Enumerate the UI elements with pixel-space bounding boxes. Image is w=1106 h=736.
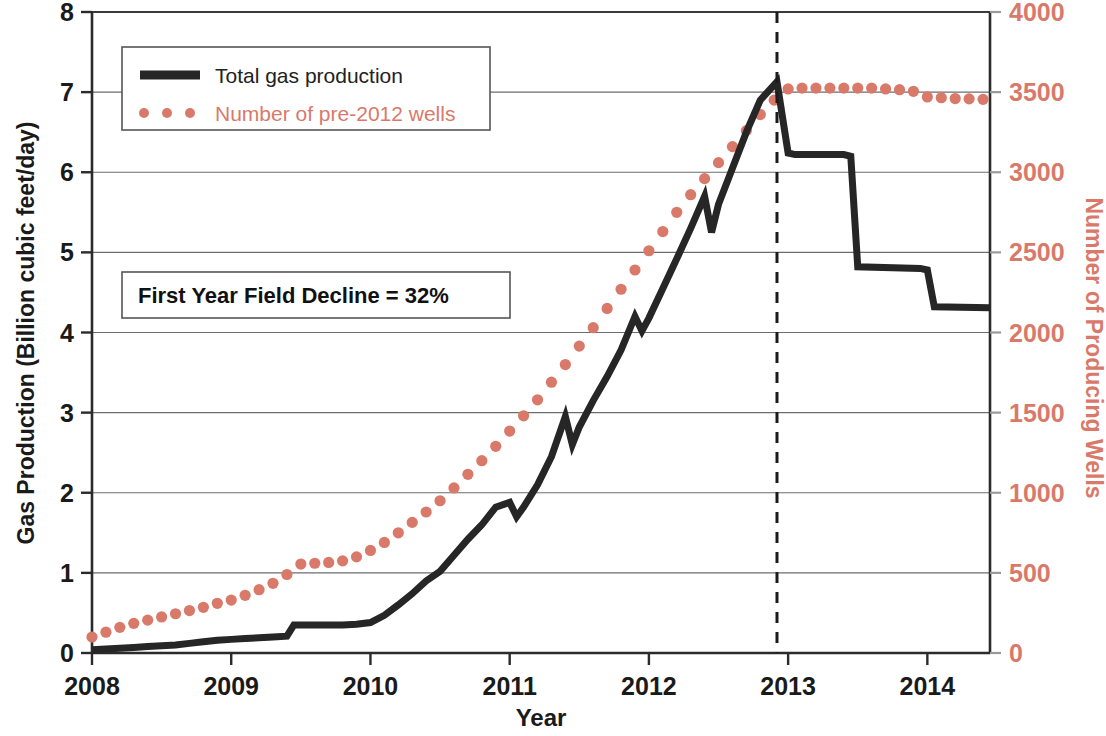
x-tick-label: 2009: [203, 672, 259, 700]
data-point-wells: [685, 189, 696, 200]
data-point-wells: [351, 551, 362, 562]
data-point-wells: [671, 207, 682, 218]
data-point-wells: [950, 93, 961, 104]
y-tick-label-left: 4: [60, 319, 74, 347]
y-tick-label-left: 3: [60, 399, 74, 427]
data-point-wells: [240, 590, 251, 601]
data-point-wells: [894, 84, 905, 95]
x-tick-label: 2011: [483, 672, 537, 700]
data-point-wells: [588, 322, 599, 333]
gridlines-group: [92, 92, 990, 573]
data-point-wells: [546, 377, 557, 388]
data-point-wells: [518, 410, 529, 421]
data-point-wells: [866, 83, 877, 94]
chart-svg: 0123456780500100015002000250030003500400…: [0, 0, 1106, 736]
x-tick-label: 2010: [343, 672, 399, 700]
data-point-wells: [936, 92, 947, 103]
data-point-wells: [337, 555, 348, 566]
x-tick-label: 2014: [900, 672, 956, 700]
y-tick-label-left: 5: [60, 238, 74, 266]
y-axis-title-left: Gas Production (Billion cubic feet/day): [13, 122, 39, 545]
data-point-wells: [615, 284, 626, 295]
data-point-wells: [922, 91, 933, 102]
data-point-wells: [281, 569, 292, 580]
line-total-gas-production: [92, 82, 990, 650]
x-tick-label: 2012: [621, 672, 677, 700]
data-point-wells: [643, 245, 654, 256]
data-point-wells: [880, 83, 891, 94]
annotation-label: First Year Field Decline = 32%: [138, 283, 449, 308]
y-tick-label-left: 1: [60, 559, 74, 587]
legend-label-number-of-pre-2012-wells: Number of pre-2012 wells: [215, 102, 455, 125]
y-tick-label-right: 1000: [1009, 479, 1065, 507]
data-point-wells: [434, 495, 445, 506]
data-point-wells: [253, 584, 264, 595]
data-point-wells: [977, 94, 988, 105]
data-point-wells: [629, 264, 640, 275]
data-point-wells: [838, 83, 849, 94]
annotation-first-year-field-decline: First Year Field Decline = 32%: [122, 272, 510, 318]
y-tick-label-left: 2: [60, 479, 74, 507]
data-point-wells: [964, 93, 975, 104]
y-tick-label-right: 2500: [1009, 238, 1065, 266]
data-point-wells: [212, 598, 223, 609]
data-point-wells: [448, 482, 459, 493]
y-tick-label-right: 3000: [1009, 158, 1065, 186]
data-point-wells: [393, 527, 404, 538]
x-tick-label: 2008: [64, 672, 120, 700]
data-point-wells: [908, 86, 919, 97]
x-axis-title: Year: [516, 704, 567, 731]
y-tick-label-left: 0: [60, 639, 74, 667]
data-point-wells: [365, 545, 376, 556]
data-point-wells: [560, 359, 571, 370]
y-tick-label-left: 6: [60, 158, 74, 186]
y-tick-label-right: 500: [1009, 559, 1051, 587]
data-point-wells: [379, 537, 390, 548]
data-point-wells: [421, 506, 432, 517]
data-point-wells: [142, 615, 153, 626]
data-point-wells: [824, 83, 835, 94]
data-point-wells: [295, 558, 306, 569]
data-point-wells: [504, 425, 515, 436]
data-point-wells: [267, 578, 278, 589]
data-point-wells: [198, 602, 209, 613]
data-point-wells: [783, 83, 794, 94]
data-point-wells: [184, 605, 195, 616]
y-tick-label-right: 1500: [1009, 399, 1065, 427]
data-point-wells: [796, 83, 807, 94]
data-point-wells: [128, 618, 139, 629]
data-point-wells: [574, 341, 585, 352]
chart-legend: Total gas production Number of pre-2012 …: [122, 47, 490, 130]
y-tick-label-right: 2000: [1009, 319, 1065, 347]
data-point-wells: [532, 394, 543, 405]
data-point-wells: [713, 157, 724, 168]
data-point-wells: [852, 83, 863, 94]
data-point-wells: [86, 631, 97, 642]
y-axis-title-right: Number of Producing Wells: [1081, 197, 1106, 498]
y-tick-label-left: 7: [60, 78, 74, 106]
data-point-wells: [657, 226, 668, 237]
y-tick-label-right: 4000: [1009, 0, 1065, 26]
y-tick-label-left: 8: [60, 0, 74, 26]
data-point-wells: [114, 622, 125, 633]
data-point-wells: [810, 83, 821, 94]
data-point-wells: [476, 455, 487, 466]
legend-swatch-number-of-pre-2012-wells: [139, 108, 195, 118]
data-point-wells: [699, 173, 710, 184]
data-point-wells: [490, 441, 501, 452]
data-point-wells: [323, 557, 334, 568]
data-point-wells: [309, 558, 320, 569]
data-point-wells: [170, 608, 181, 619]
data-point-wells: [100, 627, 111, 638]
series-total-gas-production: [92, 82, 990, 650]
data-point-wells: [156, 611, 167, 622]
data-point-wells: [462, 469, 473, 480]
data-point-wells: [407, 517, 418, 528]
data-point-wells: [602, 303, 613, 314]
legend-label-total-gas-production: Total gas production: [215, 64, 403, 87]
gas-production-chart: 0123456780500100015002000250030003500400…: [0, 0, 1106, 736]
data-point-wells: [226, 595, 237, 606]
x-tick-label: 2013: [760, 672, 816, 700]
y-tick-label-right: 3500: [1009, 78, 1065, 106]
y-tick-label-right: 0: [1009, 639, 1023, 667]
